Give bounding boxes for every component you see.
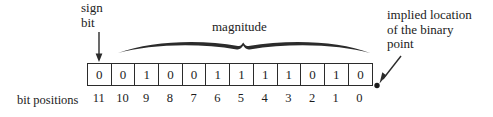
sign-bit-label-line1: sign [81, 1, 127, 16]
bit-cell: 1 [206, 64, 230, 85]
bit-position-number: 2 [300, 91, 324, 106]
bit-cell: 1 [135, 64, 159, 85]
bit-position-number: 11 [87, 91, 111, 106]
magnitude-brace [118, 42, 370, 53]
bit-cell: 0 [349, 64, 373, 85]
bit-cell: 0 [183, 64, 207, 85]
bit-position-number: 1 [324, 91, 348, 106]
implied-point-line1: implied location [387, 8, 493, 23]
bit-cell: 0 [112, 64, 136, 85]
bit-cell: 0 [159, 64, 183, 85]
bit-cell: 1 [325, 64, 349, 85]
bit-cell: 1 [230, 64, 254, 85]
bit-position-number: 10 [111, 91, 135, 106]
bit-cell: 0 [301, 64, 325, 85]
binary-point-dot [374, 83, 379, 88]
implied-binary-point-label: implied location of the binary point [387, 8, 493, 52]
sign-bit-arrow [96, 32, 103, 62]
magnitude-label: magnitude [212, 20, 267, 34]
bit-position-number: 0 [348, 91, 372, 106]
bit-cell: 1 [278, 64, 302, 85]
implied-binary-point-arrow [380, 56, 402, 84]
bit-position-number: 6 [205, 91, 229, 106]
bit-cell: 1 [254, 64, 278, 85]
fixed-point-word-diagram: sign bit magnitude implied location of t… [0, 0, 493, 117]
bit-position-number-row: 11 10 9 8 7 6 5 4 3 2 1 0 [87, 91, 371, 106]
bit-cell-row: 0 0 1 0 0 1 1 1 1 0 1 0 [87, 63, 373, 86]
bit-cell: 0 [88, 64, 112, 85]
bit-position-number: 9 [134, 91, 158, 106]
implied-point-line3: point [387, 37, 493, 52]
bit-position-number: 4 [253, 91, 277, 106]
implied-point-line2: of the binary [387, 23, 493, 38]
bit-position-number: 5 [229, 91, 253, 106]
sign-bit-label: sign bit [81, 1, 127, 30]
bit-position-number: 8 [158, 91, 182, 106]
bit-positions-label: bit positions [17, 93, 78, 107]
bit-position-number: 3 [277, 91, 301, 106]
sign-bit-label-line2: bit [81, 16, 127, 31]
bit-position-number: 7 [182, 91, 206, 106]
